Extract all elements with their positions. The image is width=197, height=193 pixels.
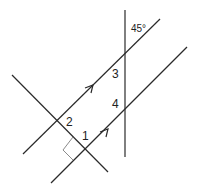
- right-angle-marker: [63, 137, 73, 160]
- angle-4-label: 4: [112, 97, 119, 111]
- perpendicular-transversal: [12, 75, 108, 172]
- angle-45-label: 45°: [131, 23, 146, 34]
- geometry-diagram: 45° 3 4 2 1: [0, 0, 197, 193]
- angle-3-label: 3: [112, 67, 119, 81]
- angle-1-label: 1: [82, 129, 89, 143]
- upper-parallel-line: [23, 19, 160, 154]
- angle-2-label: 2: [66, 115, 73, 129]
